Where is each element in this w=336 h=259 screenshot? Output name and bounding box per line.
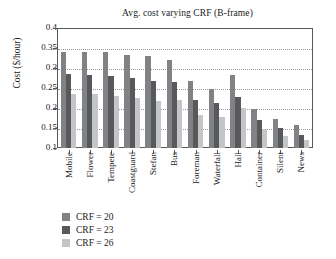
x-tick: Waterfall (206, 150, 227, 208)
x-tick: News (291, 150, 312, 208)
x-tick: Flower (79, 150, 100, 208)
x-tick: Foreman (185, 150, 206, 208)
x-tick-label: Bus (169, 152, 179, 166)
bar-group (291, 29, 312, 148)
bar-group (122, 29, 143, 148)
x-tick: Bus (164, 150, 185, 208)
x-tick: Silent (270, 150, 291, 208)
bar (71, 94, 76, 148)
x-tick: Container (249, 150, 270, 208)
bar (114, 96, 119, 148)
x-tick-label: Foreman (191, 152, 201, 184)
legend-label: CRF = 26 (76, 238, 114, 248)
x-tick-label: Stefan (148, 152, 158, 175)
x-tick: Hall (227, 150, 248, 208)
bar (92, 94, 97, 148)
bar-group (270, 29, 291, 148)
bar-group (249, 29, 270, 148)
bar (283, 136, 288, 148)
x-axis-labels: MobileFlowerTempeteCoastguardStefanBusFo… (58, 150, 312, 208)
chart-figure: Avg. cost varying CRF (B-frame) Cost ($/… (0, 0, 336, 259)
bar-group (164, 29, 185, 148)
bar-group (206, 29, 227, 148)
bar-group (185, 29, 206, 148)
legend-item: CRF = 20 (62, 210, 114, 223)
legend-swatch (62, 213, 70, 221)
legend-item: CRF = 26 (62, 236, 114, 249)
bar (198, 115, 203, 148)
bar (262, 129, 267, 148)
legend-item: CRF = 23 (62, 223, 114, 236)
x-tick-label: Tempete (106, 152, 116, 183)
bar-group (227, 29, 248, 148)
legend-swatch (62, 239, 70, 247)
x-tick-label: Mobile (64, 152, 74, 178)
x-tick: Tempete (100, 150, 121, 208)
bar-groups (58, 29, 312, 148)
bar (156, 101, 161, 148)
bar-group (100, 29, 121, 148)
y-tick-mark (53, 148, 57, 149)
x-tick: Mobile (58, 150, 79, 208)
x-tick-label: Container (254, 152, 264, 188)
legend-label: CRF = 23 (76, 225, 114, 235)
bar (135, 98, 140, 148)
chart-legend: CRF = 20CRF = 23CRF = 26 (62, 210, 114, 249)
legend-swatch (62, 226, 70, 234)
x-tick-label: Waterfall (212, 152, 222, 185)
x-tick-label: Coastguard (127, 152, 137, 193)
bar (304, 140, 309, 148)
x-tick-label: News (296, 152, 306, 173)
bar (241, 108, 246, 148)
bar (177, 100, 182, 148)
legend-label: CRF = 20 (76, 212, 114, 222)
x-tick-label: Flower (85, 152, 95, 178)
y-axis-ticks: 0.40.350.30.250.20.150.1 (27, 28, 57, 148)
bar-group (143, 29, 164, 148)
x-tick: Stefan (143, 150, 164, 208)
bar (219, 117, 224, 148)
x-tick: Coastguard (122, 150, 143, 208)
bar-group (58, 29, 79, 148)
chart-title: Avg. cost varying CRF (B-frame) (60, 8, 315, 18)
bar-group (79, 29, 100, 148)
x-tick-label: Silent (275, 152, 285, 173)
y-axis-label: Cost ($/hour) (12, 18, 22, 108)
x-tick-label: Hall (233, 152, 243, 168)
